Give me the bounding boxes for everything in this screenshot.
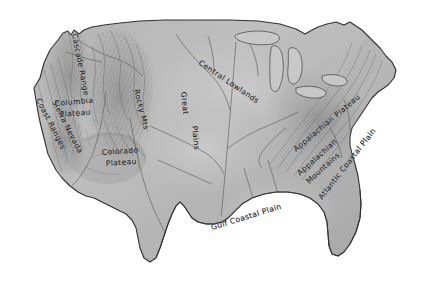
relief-shading	[30, 18, 410, 268]
map-canvas: Cascade Range Columbia Plateau Coast Ran…	[0, 0, 427, 284]
physiographic-map: Cascade Range Columbia Plateau Coast Ran…	[0, 0, 427, 284]
